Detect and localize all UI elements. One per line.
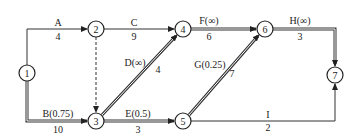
node-2-label: 2 xyxy=(94,24,99,35)
edge-c: C 9 xyxy=(104,17,174,42)
edge-g-name: G(0.25) xyxy=(194,59,225,71)
edge-i: I 2 xyxy=(191,84,335,133)
edge-f-duration: 6 xyxy=(207,31,212,42)
edge-c-name: C xyxy=(131,17,138,28)
edge-f-name: F(∞) xyxy=(199,15,218,27)
node-2: 2 xyxy=(88,21,104,37)
edge-d-name: D(∞) xyxy=(124,57,145,69)
edge-a: A 4 xyxy=(27,17,87,65)
edge-e-duration: 3 xyxy=(136,124,141,135)
node-5-label: 5 xyxy=(181,116,186,127)
node-7: 7 xyxy=(327,67,343,83)
edge-g: G(0.25) 7 xyxy=(189,35,259,115)
edge-h: H(∞) 3 xyxy=(273,15,335,66)
node-3: 3 xyxy=(88,113,104,129)
node-7-label: 7 xyxy=(333,70,338,81)
edge-d: D(∞) 4 xyxy=(102,35,177,115)
edge-h-duration: 3 xyxy=(298,31,303,42)
node-4-label: 4 xyxy=(181,24,186,35)
edge-e: E(0.5) 3 xyxy=(104,108,174,135)
edge-e-name: E(0.5) xyxy=(125,108,150,120)
node-3-label: 3 xyxy=(94,116,99,127)
edge-a-name: A xyxy=(54,17,62,28)
node-1: 1 xyxy=(19,65,35,81)
edge-a-duration: 4 xyxy=(56,31,61,42)
network-diagram: A 4 B(0.75) 10 C 9 D(∞) 4 E(0.5) 3 xyxy=(0,0,357,137)
edge-i-name: I xyxy=(266,109,269,120)
node-4: 4 xyxy=(175,21,191,37)
edge-i-duration: 2 xyxy=(266,122,271,133)
edge-f: F(∞) 6 xyxy=(191,15,256,42)
node-5: 5 xyxy=(175,113,191,129)
node-1-label: 1 xyxy=(25,68,30,79)
edge-b-duration: 10 xyxy=(53,124,63,135)
node-6: 6 xyxy=(257,21,273,37)
edge-b-name: B(0.75) xyxy=(43,108,74,120)
edge-g-duration: 7 xyxy=(230,68,235,79)
edge-d-duration: 4 xyxy=(156,64,161,75)
edge-h-name: H(∞) xyxy=(289,15,310,27)
edge-b: B(0.75) 10 xyxy=(27,81,87,135)
node-6-label: 6 xyxy=(263,24,268,35)
edge-c-duration: 9 xyxy=(132,31,137,42)
